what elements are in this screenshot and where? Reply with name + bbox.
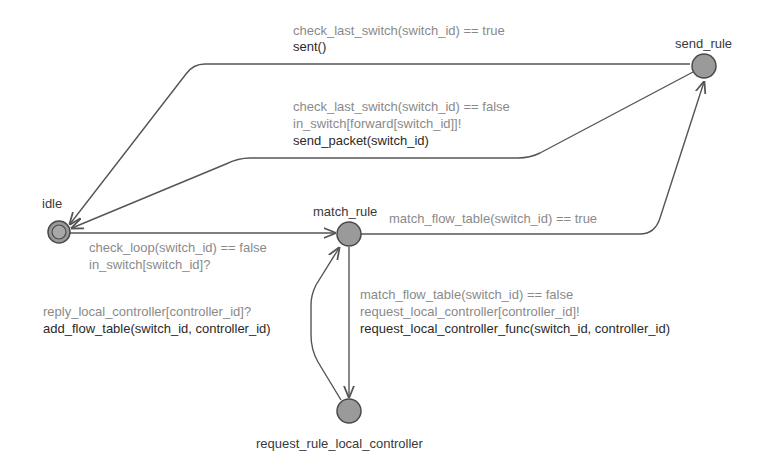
location-idle[interactable]: [48, 221, 70, 243]
guard-label: check_loop(switch_id) == false: [89, 240, 267, 255]
automaton-diagram: [0, 0, 779, 471]
location-match-rule[interactable]: [337, 222, 361, 246]
location-name-send-rule: send_rule: [675, 36, 732, 51]
location-name-request-rule-local-controller: request_rule_local_controller: [256, 436, 423, 451]
update-label: add_flow_table(switch_id, controller_id): [43, 321, 271, 336]
location-name-idle: idle: [42, 196, 62, 211]
update-label: send_packet(switch_id): [293, 133, 429, 148]
edge-send-rule-to-idle-send-packet[interactable]: [72, 72, 693, 228]
update-label: request_local_controller_func(switch_id,…: [360, 321, 670, 336]
guard-label: match_flow_table(switch_id) == false: [360, 287, 573, 302]
guard-label: match_flow_table(switch_id) == true: [389, 211, 597, 226]
sync-label: request_local_controller[controller_id]!: [360, 304, 580, 319]
guard-label: check_last_switch(switch_id) == true: [293, 23, 505, 38]
guard-label: check_last_switch(switch_id) == false: [293, 99, 510, 114]
location-name-match-rule: match_rule: [313, 204, 377, 219]
update-label: sent(): [293, 39, 326, 54]
location-send-rule[interactable]: [692, 54, 716, 78]
edge-request-rule-to-match-rule[interactable]: [311, 248, 341, 400]
sync-label: in_switch[switch_id]?: [89, 257, 210, 272]
sync-label: reply_local_controller[controller_id]?: [43, 304, 251, 319]
sync-label: in_switch[forward[switch_id]]!: [293, 116, 461, 131]
location-request-rule-local-controller[interactable]: [337, 399, 361, 423]
